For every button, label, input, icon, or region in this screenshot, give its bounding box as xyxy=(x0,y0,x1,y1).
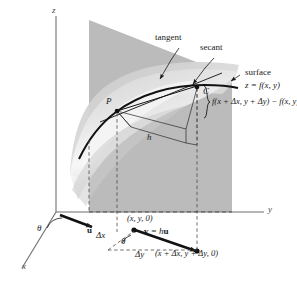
end-point-label: (x + Δx, y + Δy, 0) xyxy=(155,249,218,258)
delta-y-label: Δy xyxy=(135,250,144,259)
vector-u-label: u xyxy=(87,226,92,235)
base-point-label: (x, y, 0) xyxy=(127,214,153,223)
difference-quotient-label: f(x + Δx, y + Δy) − f(x, y) xyxy=(212,97,297,106)
theta-origin-label: θ xyxy=(37,224,41,233)
point-P-dot xyxy=(115,109,120,114)
z-axis-label: z xyxy=(52,6,56,15)
point-Q-dot xyxy=(195,85,200,90)
surface-label: surface xyxy=(245,68,271,77)
curve-C-label: C xyxy=(203,87,209,96)
surface-equation-label: z = f(x, y) xyxy=(245,81,280,90)
secant-label: secant xyxy=(200,43,223,52)
tangent-label: tangent xyxy=(155,33,182,42)
y-axis-label: y xyxy=(268,205,272,214)
point-P-label: P xyxy=(106,97,112,106)
height-h-label: h xyxy=(147,133,152,142)
theta-base-label: θ xyxy=(121,237,125,246)
x-axis xyxy=(22,212,56,268)
directional-derivative-figure: z y x tangent secant surface z = f(x, y)… xyxy=(0,0,297,282)
delta-x-label: Δx xyxy=(96,231,105,240)
base-point-dot xyxy=(131,227,136,232)
vector-v-equation-label: v = hu xyxy=(144,227,169,236)
x-axis-label: x xyxy=(22,262,26,271)
